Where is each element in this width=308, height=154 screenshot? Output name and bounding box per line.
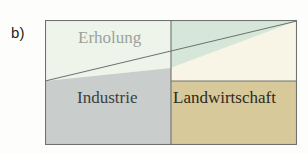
region-industrie-fill	[45, 68, 171, 145]
region-landwirtschaft-fill	[171, 81, 297, 145]
panel-letter: b)	[11, 25, 25, 40]
land-use-diagram: Erholung Industrie Landwirtschaft	[45, 20, 297, 145]
diagram-canvas	[45, 20, 297, 145]
figure-panel-b: b) Erholung Industr	[0, 0, 308, 154]
